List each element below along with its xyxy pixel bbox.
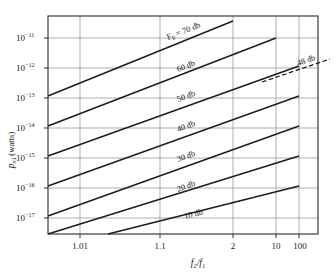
x-axis-title: f2/f1 xyxy=(191,258,205,269)
xtick-label-10: 10 xyxy=(272,241,282,251)
x-axis-tickmarks xyxy=(80,234,299,238)
log-log-noise-power-chart: 10−11 10−12 10−13 10−14 10−15 10−16 10−1… xyxy=(0,0,336,274)
xtick-label-1.1: 1.1 xyxy=(154,241,165,251)
ytick-label-1e-14: 10−14 xyxy=(16,121,35,133)
y-axis-tick-labels: 10−11 10−12 10−13 10−14 10−15 10−16 10−1… xyxy=(16,31,35,223)
ytick-label-1e-16: 10−16 xyxy=(16,181,35,193)
ytick-label-1e-15: 10−15 xyxy=(16,151,35,163)
xtick-label-100: 100 xyxy=(293,241,307,251)
xtick-label-2: 2 xyxy=(231,241,236,251)
y-axis-title: pn1(watts) xyxy=(6,132,17,170)
ytick-label-1e-11: 10−11 xyxy=(16,31,34,43)
ytick-label-1e-12: 10−12 xyxy=(16,61,35,73)
ytick-label-1e-17: 10−17 xyxy=(16,211,35,223)
chart-figure: 10−11 10−12 10−13 10−14 10−15 10−16 10−1… xyxy=(0,0,336,274)
y-axis-tickmarks xyxy=(44,38,48,218)
ytick-label-1e-13: 10−13 xyxy=(16,91,35,103)
xtick-label-1.01: 1.01 xyxy=(72,241,88,251)
x-axis-tick-labels: 1.01 1.1 2 10 100 xyxy=(72,241,307,251)
